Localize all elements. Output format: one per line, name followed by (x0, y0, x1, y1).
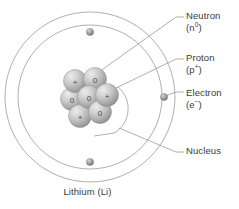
nucleus-particle-proton-3: + (96, 84, 119, 107)
label-nucleus: Nucleus (186, 145, 221, 157)
svg-text:+: + (105, 92, 110, 101)
label-neutron: Neutron (n0) (186, 10, 221, 33)
leader-line-proton (112, 59, 184, 90)
label-neutron-symbol: (n0) (186, 22, 221, 34)
svg-text:+: + (78, 113, 83, 122)
label-proton-symbol: (p+) (186, 64, 215, 76)
label-proton: Proton (p+) (186, 52, 215, 75)
label-electron-symbol: (e−) (186, 99, 222, 111)
svg-text:0: 0 (98, 109, 103, 118)
label-nucleus-name: Nucleus (186, 145, 221, 157)
diagram-caption: Lithium (Li) (0, 186, 175, 197)
label-proton-name: Proton (186, 52, 215, 64)
svg-text:+: + (73, 78, 78, 87)
leader-line-electron (165, 92, 184, 96)
nucleus-cluster: 0 + + 0 0 0 + (61, 68, 119, 128)
lithium-atom-diagram: 0 + + 0 0 0 + (0, 0, 239, 209)
leader-line-nucleus (119, 128, 184, 152)
label-neutron-name: Neutron (186, 10, 221, 22)
label-electron-name: Electron (186, 87, 222, 99)
electron-bottom (86, 158, 93, 165)
electron-top (86, 28, 93, 35)
label-electron: Electron (e−) (186, 87, 222, 110)
electron-right (160, 93, 167, 100)
svg-text:0: 0 (70, 96, 75, 105)
svg-text:0: 0 (87, 94, 92, 103)
svg-text:0: 0 (93, 76, 98, 85)
